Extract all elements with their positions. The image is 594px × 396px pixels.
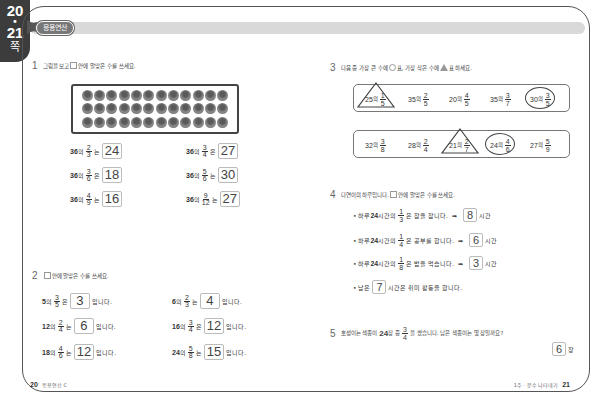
instruction-text: 그림을 보고 [43, 62, 70, 70]
apple-icon [205, 90, 216, 101]
footer-right: 1주 · 분수 나타내기 21 [514, 381, 574, 388]
fraction: 36 [86, 168, 92, 183]
answer-box[interactable]: 18 [102, 167, 122, 183]
footer-label: 1주 · 분수 나타내기 [514, 381, 559, 388]
problem-3-instruction: 3 다음 중 가장 큰 수에 표, 가장 작은 수에 표 하세요. [330, 62, 472, 73]
answer-box[interactable]: 12 [204, 318, 224, 334]
fraction: 46 [58, 345, 64, 360]
question-text: 장 중 [388, 329, 400, 337]
page-number: 21 [562, 381, 570, 388]
apple-icon [82, 117, 93, 128]
triangle-symbol-icon [440, 64, 448, 71]
fraction: 58 [188, 345, 194, 360]
page-end: 21 [7, 25, 24, 40]
fraction: 25 [423, 92, 429, 107]
apple-icon [82, 103, 93, 114]
fraction: 14 [398, 233, 404, 248]
arrow-icon: ➡ [458, 260, 463, 267]
fraction: 59 [545, 138, 551, 153]
problem-number: 2 [32, 270, 38, 281]
arrow-icon: ➡ [458, 237, 463, 244]
answer-box[interactable]: 12 [74, 344, 94, 360]
answer-box[interactable]: 27 [218, 143, 238, 159]
answer-box[interactable]: 6 [469, 233, 483, 247]
apple-icon [156, 90, 167, 101]
apple-icon [217, 90, 228, 101]
problem-number: 3 [330, 62, 336, 73]
fraction: 37 [505, 92, 511, 107]
bullet-text: 시간은 취미 활동을 합니다. [388, 283, 462, 292]
largest-circle-mark [485, 133, 515, 155]
fraction: 13 [398, 208, 404, 223]
page-number: 20 [30, 381, 38, 388]
schedule-bullet: • 하루 24시간의14은 공부를 합니다.➡6시간 [353, 233, 497, 248]
fraction-expression: 5의35은3입니다. [42, 293, 112, 309]
remaining-hours-line: • 남은 7 시간은 취미 활동을 합니다. [353, 280, 462, 294]
answer-box[interactable]: 8 [463, 208, 477, 222]
problem-2-instruction: 2 안에 알맞은 수를 쓰세요. [32, 270, 109, 281]
section-badge: 응용연산 [36, 21, 74, 35]
fraction: 34 [202, 144, 208, 159]
footer-label: 응용연산 C [42, 381, 67, 388]
answer-box[interactable]: 7 [372, 280, 386, 294]
largest-circle-mark [525, 87, 555, 109]
unit-label: 장 [568, 345, 574, 354]
answer-box[interactable]: 3 [469, 256, 483, 270]
apple-icon [106, 117, 117, 128]
blank-box-icon [70, 62, 77, 69]
instruction-text: 다음 중 가장 큰 수에 [341, 64, 388, 72]
apple-icon [156, 103, 167, 114]
fraction: 56 [202, 168, 208, 183]
fraction-expression: 36의56는30 [186, 167, 240, 183]
fraction-expression: 24의58는15입니다. [172, 344, 246, 360]
fraction: 35 [54, 294, 60, 309]
apple-icon [106, 103, 117, 114]
apple-icon [106, 90, 117, 101]
answer-box[interactable]: 6 [552, 342, 566, 356]
answer-box[interactable]: 24 [102, 143, 122, 159]
apple-icon [131, 103, 142, 114]
apple-icon [168, 117, 179, 128]
bullet-text: • 남은 [353, 283, 370, 292]
apple-icon [205, 103, 216, 114]
choice-item[interactable]: 27의59 [530, 138, 553, 153]
schedule-bullet: • 하루 24시간의18은 밥을 먹습니다.➡3시간 [353, 256, 497, 271]
circle-symbol-icon [389, 64, 396, 71]
fraction-expression: 6의23는4입니다. [172, 293, 242, 309]
choice-item[interactable]: 20의45 [449, 92, 472, 107]
problem-number: 4 [330, 189, 336, 200]
fraction: 38 [380, 138, 386, 153]
fraction-expression: 36의912는27 [186, 191, 242, 207]
apple-icon [168, 90, 179, 101]
fraction-expression: 36의36은18 [70, 167, 124, 183]
problem-5-question: 5 호성이는 색종이 24 장 중 34 을 썼습니다. 남은 색종이는 몇 장… [330, 326, 503, 341]
apple-icon [168, 103, 179, 114]
problem-number: 1 [32, 60, 38, 71]
answer-box[interactable]: 4 [200, 293, 220, 309]
fraction: 18 [398, 256, 404, 271]
apple-icon [143, 90, 154, 101]
answer-box[interactable]: 30 [218, 167, 238, 183]
blank-box-icon [44, 272, 51, 279]
answer-box[interactable]: 6 [74, 318, 94, 334]
footer-left: 20 응용연산 C [30, 381, 67, 388]
choice-item[interactable]: 35의25 [408, 92, 431, 107]
choice-item[interactable]: 32의38 [365, 138, 388, 153]
apple-icon [156, 117, 167, 128]
answer-box[interactable]: 3 [70, 293, 90, 309]
apple-icon [205, 117, 216, 128]
apple-icon [193, 103, 204, 114]
instruction-text: 다연이의 하루입니다. [341, 191, 390, 199]
fraction-expression: 16의34은12입니다. [172, 318, 246, 334]
answer-box[interactable]: 16 [102, 191, 122, 207]
choice-item[interactable]: 35의37 [490, 92, 513, 107]
answer-box[interactable]: 15 [204, 344, 224, 360]
fraction: 49 [86, 192, 92, 207]
choice-item[interactable]: 28의24 [408, 138, 431, 153]
instruction-text: 표, 가장 작은 수에 [397, 64, 439, 72]
fraction: 45 [464, 92, 470, 107]
instruction-text: 안에 알맞은 수를 쓰세요. [78, 62, 135, 70]
smallest-triangle-mark [441, 128, 479, 154]
apple-icon [217, 103, 228, 114]
answer-box[interactable]: 27 [220, 191, 240, 207]
